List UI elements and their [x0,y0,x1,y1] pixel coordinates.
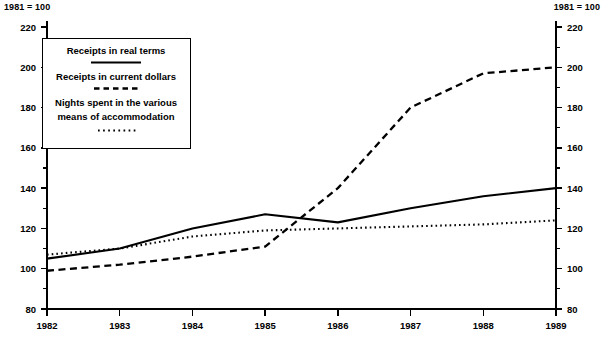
x-axis-label: 1988 [473,320,494,331]
y-axis-left-labels: 80100120140160180200220 [20,22,36,315]
line-chart: 80100120140160180200220 8010012014016018… [0,0,604,350]
y-axis-label-left: 160 [20,142,36,153]
y-axis-label-right: 200 [567,62,583,73]
series-line-nights-spent [47,220,556,254]
legend-label-receipts-real-terms: Receipts in real terms [67,45,166,56]
y-axis-label-left: 220 [20,22,36,33]
series-line-receipts-real-terms [47,188,556,259]
x-axis-label: 1983 [109,320,130,331]
chart-legend: Receipts in real terms Receipts in curre… [43,39,191,149]
y-axis-label-right: 80 [567,304,578,315]
y-axis-label-right: 120 [567,223,583,234]
legend-label-nights-spent-line2: means of accommodation [57,111,174,122]
y-axis-label-left: 200 [20,62,36,73]
y-axis-label-left: 140 [20,183,36,194]
x-axis-label: 1982 [36,320,57,331]
y-axis-label-left: 80 [25,304,36,315]
y-axis-label-left: 100 [20,263,36,274]
x-axis-ticks [47,309,556,316]
x-axis: 19821983198419851986198719881989 [36,309,566,331]
y-axis-label-left: 180 [20,102,36,113]
y-axis-right: 80100120140160180200220 [556,21,583,315]
y-axis-label-right: 160 [567,142,583,153]
x-axis-label: 1985 [255,320,277,331]
x-axis-label: 1989 [545,320,566,331]
x-axis-labels: 19821983198419851986198719881989 [36,320,566,331]
x-axis-label: 1987 [400,320,421,331]
y-axis-label-left: 120 [20,223,36,234]
y-axis-right-labels: 80100120140160180200220 [567,22,583,315]
chart-figure: 1981 = 100 1981 = 100 801001201401601802… [0,0,604,350]
y-axis-label-right: 100 [567,263,583,274]
x-axis-label: 1984 [182,320,204,331]
y-axis-label-right: 140 [567,183,583,194]
x-axis-label: 1986 [327,320,348,331]
legend-label-receipts-current-dollars: Receipts in current dollars [56,71,176,82]
legend-label-nights-spent-line1: Nights spent in the various [55,97,177,108]
y-axis-label-right: 180 [567,102,583,113]
y-axis-label-right: 220 [567,22,583,33]
